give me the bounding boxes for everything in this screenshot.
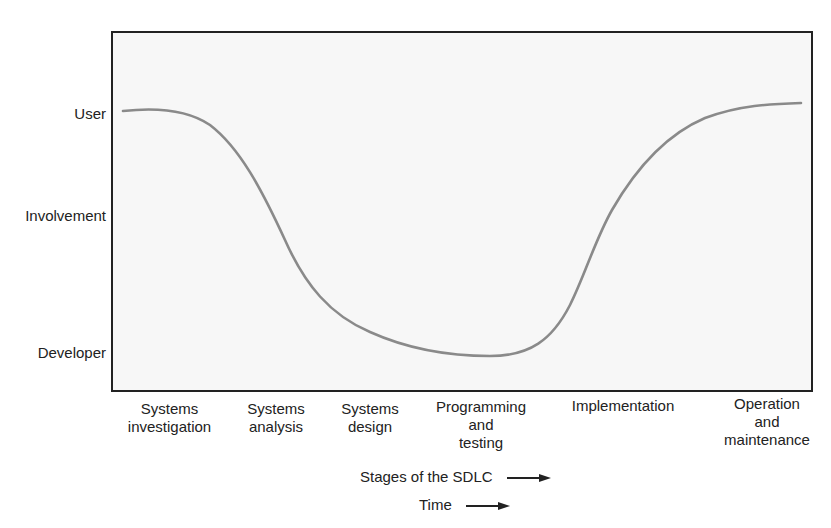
stage-line: Implementation	[558, 397, 688, 415]
stage-line: Systems	[236, 400, 316, 418]
stage-implementation: Implementation	[558, 397, 688, 415]
stage-line: and	[707, 413, 827, 431]
stage-line: testing	[421, 434, 541, 452]
stage-line: analysis	[236, 418, 316, 436]
y-label-developer: Developer	[6, 344, 106, 362]
x-axis-subtitle: Time	[419, 496, 510, 514]
stage-line: maintenance	[707, 431, 827, 449]
stage-line: Systems	[112, 400, 227, 418]
stage-line: Systems	[330, 400, 410, 418]
x-axis-title: Stages of the SDLC	[360, 468, 551, 486]
stage-operation-maintenance: Operation and maintenance	[707, 395, 827, 449]
x-axis-subtitle-text: Time	[419, 496, 452, 513]
stage-line: design	[330, 418, 410, 436]
stage-systems-investigation: Systems investigation	[112, 400, 227, 436]
stage-line: investigation	[112, 418, 227, 436]
y-label-user: User	[6, 105, 106, 123]
stage-systems-analysis: Systems analysis	[236, 400, 316, 436]
x-axis-title-text: Stages of the SDLC	[360, 468, 493, 485]
y-label-involvement: Involvement	[6, 207, 106, 225]
stage-programming-testing: Programming and testing	[421, 398, 541, 452]
stage-line: Programming	[421, 398, 541, 416]
stage-line: Operation	[707, 395, 827, 413]
arrow-right-icon	[466, 501, 510, 511]
stage-line: and	[421, 416, 541, 434]
arrow-right-icon	[507, 473, 551, 483]
stage-systems-design: Systems design	[330, 400, 410, 436]
